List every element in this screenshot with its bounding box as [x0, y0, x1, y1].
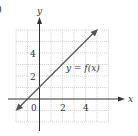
x-axis-arrow-icon [118, 97, 125, 102]
function-label: y = f(x) [65, 63, 100, 73]
x-axis-label: x [128, 94, 133, 104]
axes [8, 22, 120, 131]
x-tick-0: 0 [31, 103, 37, 113]
y-axis-label: y [36, 6, 43, 16]
y-tick-4: 4 [30, 49, 36, 59]
y-tick-2: 2 [30, 72, 36, 82]
x-tick-2: 2 [60, 103, 66, 113]
function-graph: ) x y 0 2 4 2 4 y = f(x) [0, 0, 138, 136]
cropped-label-fragment: ) [0, 3, 2, 14]
y-axis-arrow-icon [37, 17, 42, 24]
x-tick-4: 4 [83, 103, 89, 113]
